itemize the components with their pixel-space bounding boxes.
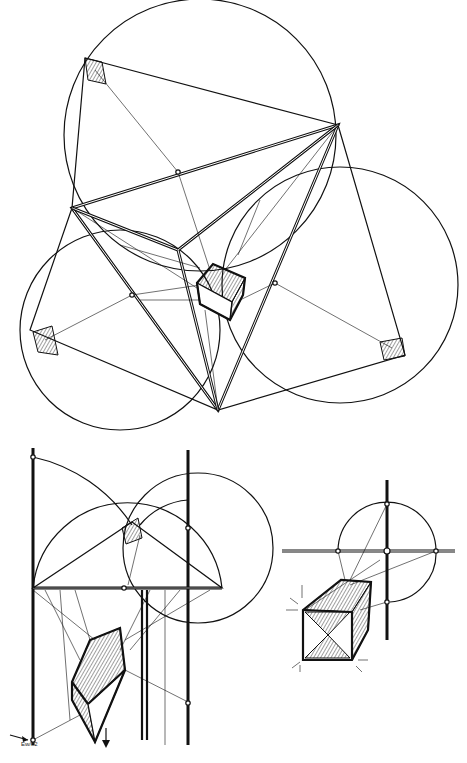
cube-right — [303, 580, 371, 660]
vanishing-triangle — [72, 125, 338, 410]
point-marker — [176, 170, 180, 174]
right-right-triangle — [218, 125, 405, 410]
perspective-diagram: Ew/82 — [0, 0, 467, 763]
down-arrow-icon — [102, 740, 110, 748]
left-right-triangle — [30, 208, 218, 410]
bottom-right-diagram — [282, 480, 455, 672]
right-angle-mark-right — [380, 338, 405, 360]
bottom-left-diagram: Ew/82 — [10, 448, 273, 748]
cube-top — [197, 264, 245, 320]
point-marker — [130, 293, 134, 297]
measuring-circle-right — [222, 167, 458, 403]
signature: Ew/82 — [21, 741, 38, 747]
arc-arrow — [33, 457, 132, 525]
top-diagram — [20, 0, 458, 430]
point-marker — [273, 281, 277, 285]
measuring-circle — [123, 473, 273, 623]
top-right-triangle — [72, 58, 338, 208]
right-angle-mark-left — [33, 326, 58, 355]
cube-left — [72, 628, 125, 742]
